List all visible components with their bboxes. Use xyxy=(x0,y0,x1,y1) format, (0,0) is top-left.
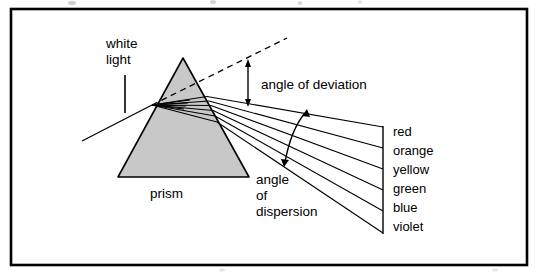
spectrum-label-blue: blue xyxy=(393,200,418,215)
prism-label: prism xyxy=(150,186,183,201)
white-light-label-line2: light xyxy=(106,52,131,67)
angle-of-dispersion-label-line1: angle xyxy=(256,172,289,187)
angle-of-dispersion-label-line3: dispersion xyxy=(256,204,318,219)
spectrum-label-yellow: yellow xyxy=(393,162,430,177)
spectrum-label-green: green xyxy=(393,181,426,196)
prism-dispersion-figure: white light prism angle of deviation ang… xyxy=(0,0,550,276)
prism-dispersion-diagram: white light prism angle of deviation ang… xyxy=(0,0,550,276)
angle-of-dispersion-label-line2: of xyxy=(256,188,268,203)
angle-of-deviation-label: angle of deviation xyxy=(261,77,367,92)
spectrum-label-red: red xyxy=(393,124,412,139)
spectrum-label-violet: violet xyxy=(393,219,424,234)
white-light-label-line1: white xyxy=(105,36,138,51)
spectrum-label-orange: orange xyxy=(393,143,433,158)
